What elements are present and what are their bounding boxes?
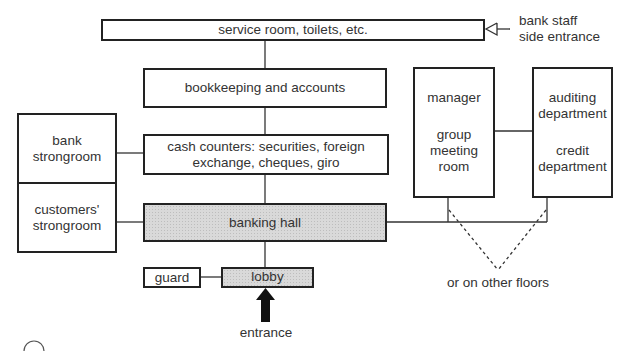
auditing-credit-box: auditing department credit department xyxy=(532,67,613,198)
manager-label: manager xyxy=(427,90,480,106)
service-room-label: service room, toilets, etc. xyxy=(218,22,367,38)
side-entrance-arrow-icon xyxy=(486,23,497,35)
banking-hall-box: banking hall xyxy=(143,203,387,242)
bank-strongroom-box: bank strongroom xyxy=(17,113,117,184)
guard-box: guard xyxy=(143,267,201,288)
cash-counters-box: cash counters: securities, foreign excha… xyxy=(143,134,389,175)
entrance-arrow-icon xyxy=(256,288,275,322)
entrance-label: entrance xyxy=(234,325,298,341)
auditing-department-label: auditing department xyxy=(536,90,609,122)
bookkeeping-label: bookkeeping and accounts xyxy=(185,80,346,96)
side-entrance-label: bank staff side entrance xyxy=(519,13,627,45)
service-room-box: service room, toilets, etc. xyxy=(101,19,485,41)
manager-box: manager group meeting room xyxy=(413,67,495,198)
customers-strongroom-box: customers' strongroom xyxy=(17,182,117,253)
cash-counters-label: cash counters: securities, foreign excha… xyxy=(151,139,381,171)
bookkeeping-box: bookkeeping and accounts xyxy=(143,68,387,108)
other-floors-label: or on other floors xyxy=(428,275,568,291)
lobby-box: lobby xyxy=(221,267,314,288)
guard-label: guard xyxy=(155,270,190,286)
banking-hall-label: banking hall xyxy=(229,215,301,231)
lobby-label: lobby xyxy=(251,269,283,284)
bank-strongroom-label: bank strongroom xyxy=(25,133,109,165)
customers-strongroom-label: customers' strongroom xyxy=(25,202,109,234)
group-meeting-room-label: group meeting room xyxy=(424,127,484,175)
credit-department-label: credit department xyxy=(536,143,609,175)
